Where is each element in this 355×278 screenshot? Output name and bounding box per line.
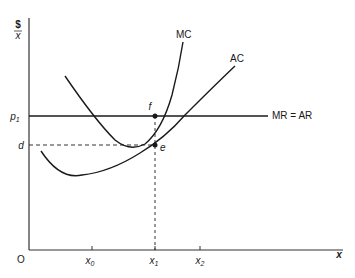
mc-curve xyxy=(65,42,183,147)
point-f xyxy=(153,114,158,119)
point-e-label: e xyxy=(160,142,166,153)
x0-label: x0 xyxy=(85,255,95,267)
y-axis-label-top: $ xyxy=(15,19,21,30)
x-axis-label: x xyxy=(335,249,342,260)
point-f-label: f xyxy=(149,101,153,112)
x2-label: x2 xyxy=(195,255,205,267)
d-label: d xyxy=(18,140,24,151)
y-axis-label-bottom: x xyxy=(15,30,22,41)
mr-ar-label: MR = AR xyxy=(272,110,312,121)
economics-diagram: $ x x O x0 x1 x2 p1 d MR = AR AC MC f e xyxy=(0,0,355,278)
mc-label: MC xyxy=(176,29,192,40)
origin-label: O xyxy=(17,254,25,265)
point-e xyxy=(153,143,158,148)
p1-label: p1 xyxy=(9,111,20,123)
ac-label: AC xyxy=(230,53,244,64)
x1-label: x1 xyxy=(149,255,159,267)
